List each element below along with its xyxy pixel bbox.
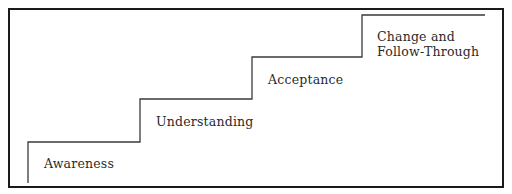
step-label-understanding: Understanding [156,114,254,129]
step-label-awareness: Awareness [44,156,114,171]
step-label-acceptance: Acceptance [268,72,343,87]
step-label-change-and-follow-through: Change and Follow-Through [377,29,479,59]
step-label-line-2: Follow-Through [377,44,479,59]
step-label-line-1: Change and [377,29,479,44]
